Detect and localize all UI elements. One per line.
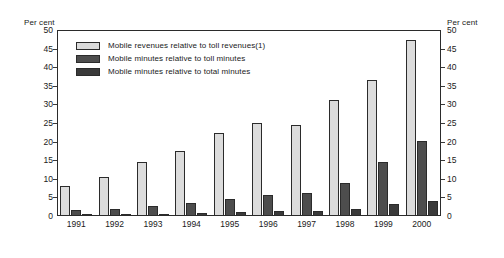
x-tick-label: 1993: [136, 219, 170, 229]
y-tick-label-left: 0: [33, 211, 53, 221]
y-tick-label-right: 15: [447, 155, 467, 165]
bar: [71, 210, 81, 216]
legend-swatch-icon: [76, 55, 100, 63]
y-tick-mark-right: [441, 67, 445, 68]
y-tick-label-left: 40: [33, 62, 53, 72]
chart-legend: Mobile revenues relative to toll revenue…: [76, 40, 265, 79]
legend-item: Mobile revenues relative to toll revenue…: [76, 40, 265, 51]
bar: [406, 40, 416, 216]
bar: [252, 123, 262, 216]
bar: [99, 177, 109, 216]
y-tick-label-left: 15: [33, 155, 53, 165]
x-tick-label: 1998: [328, 219, 362, 229]
bar-group: [291, 30, 323, 216]
legend-item: Mobile minutes relative to total minutes: [76, 66, 265, 77]
legend-item: Mobile minutes relative to toll minutes: [76, 53, 265, 64]
y-tick-label-left: 30: [33, 99, 53, 109]
y-tick-label-right: 40: [447, 62, 467, 72]
bar: [378, 162, 388, 216]
bar: [367, 80, 377, 216]
y-tick-mark-right: [441, 49, 445, 50]
bar: [351, 209, 361, 216]
y-tick-label-right: 25: [447, 118, 467, 128]
x-tick-label: 1999: [366, 219, 400, 229]
bar: [340, 183, 350, 216]
y-tick-label-left: 20: [33, 137, 53, 147]
y-tick-label-left: 5: [33, 192, 53, 202]
legend-label: Mobile minutes relative to total minutes: [108, 67, 250, 76]
bar: [313, 211, 323, 216]
bar: [175, 151, 185, 216]
legend-swatch-icon: [76, 68, 100, 76]
y-tick-label-left: 25: [33, 118, 53, 128]
x-tick-label: 1992: [98, 219, 132, 229]
x-tick-label: 1994: [174, 219, 208, 229]
y-tick-label-right: 20: [447, 137, 467, 147]
bar-group: [329, 30, 361, 216]
bar: [121, 214, 131, 216]
bar: [60, 186, 70, 217]
bar: [428, 201, 438, 216]
bar-chart-figure: Per cent Per cent 05101520253035404550 0…: [0, 0, 504, 258]
y-tick-label-right: 50: [447, 25, 467, 35]
legend-label: Mobile revenues relative to toll revenue…: [108, 41, 265, 50]
bar: [291, 125, 301, 217]
y-tick-label-right: 45: [447, 44, 467, 54]
y-tick-label-right: 5: [447, 192, 467, 202]
y-tick-label-right: 30: [447, 99, 467, 109]
legend-swatch-icon: [76, 42, 100, 50]
bar: [225, 199, 235, 216]
y-tick-label-left: 35: [33, 81, 53, 91]
y-tick-mark-right: [441, 104, 445, 105]
y-tick-label-left: 45: [33, 44, 53, 54]
bar: [137, 162, 147, 216]
y-tick-mark-right: [441, 197, 445, 198]
y-tick-label-left: 50: [33, 25, 53, 35]
y-tick-label-left: 10: [33, 174, 53, 184]
bar: [236, 212, 246, 216]
bar: [389, 204, 399, 216]
x-tick-label: 1991: [59, 219, 93, 229]
y-tick-label-right: 10: [447, 174, 467, 184]
bar: [110, 209, 120, 216]
bar: [186, 203, 196, 216]
bar-group: [367, 30, 399, 216]
x-tick-label: 2000: [405, 219, 439, 229]
legend-label: Mobile minutes relative to toll minutes: [108, 54, 245, 63]
bar: [159, 214, 169, 216]
y-tick-mark-right: [441, 142, 445, 143]
y-tick-mark-right: [441, 160, 445, 161]
y-tick-mark-right: [441, 123, 445, 124]
y-tick-label-right: 35: [447, 81, 467, 91]
x-tick-label: 1995: [213, 219, 247, 229]
x-tick-label: 1997: [290, 219, 324, 229]
bar: [82, 214, 92, 216]
y-tick-mark-right: [441, 86, 445, 87]
bar: [329, 100, 339, 216]
bar: [302, 193, 312, 216]
bar: [148, 206, 158, 216]
bar: [197, 213, 207, 216]
x-axis: 1991199219931994199519961997199819992000: [57, 219, 441, 233]
x-tick-label: 1996: [251, 219, 285, 229]
bar: [274, 211, 284, 216]
bar-group: [406, 30, 438, 216]
y-tick-label-right: 0: [447, 211, 467, 221]
bar: [214, 133, 224, 216]
bar: [263, 195, 273, 216]
y-tick-mark-right: [441, 179, 445, 180]
bar: [417, 141, 427, 216]
